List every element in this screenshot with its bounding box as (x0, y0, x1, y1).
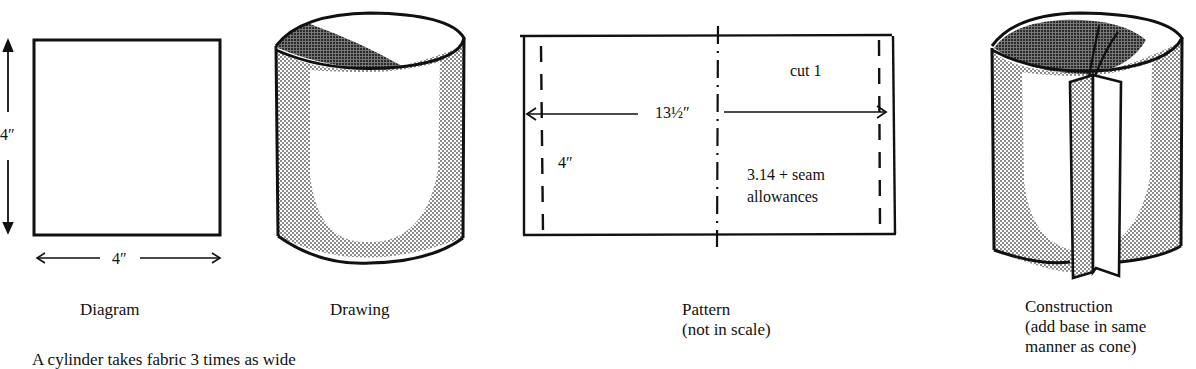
construction-caption-line3: manner as cone) (1025, 337, 1136, 357)
construction-cylinder (991, 13, 1182, 278)
drawing-cylinder (276, 13, 464, 263)
pattern-caption-title: Pattern (682, 300, 730, 320)
pattern-figure (520, 26, 896, 247)
illustration-canvas (0, 0, 1196, 369)
diagram-width-label: 4″ (112, 250, 127, 268)
construction-caption-title: Construction (1025, 297, 1113, 317)
pattern-note-line2: allowances (747, 188, 818, 206)
diagram-figure (3, 40, 220, 263)
diagram-caption: Diagram (80, 300, 139, 320)
footer-text: A cylinder takes fabric 3 times as wide (32, 350, 296, 369)
pattern-caption-subtitle: (not in scale) (682, 320, 771, 340)
pattern-cut-label: cut 1 (790, 62, 822, 80)
pattern-width-label: 13½″ (655, 104, 690, 122)
pattern-height-label: 4″ (558, 154, 573, 172)
construction-caption-line2: (add base in same (1025, 317, 1146, 337)
pattern-note-line1: 3.14 + seam (747, 166, 825, 184)
drawing-caption: Drawing (330, 300, 389, 320)
diagram-height-label: 4″ (0, 126, 15, 144)
